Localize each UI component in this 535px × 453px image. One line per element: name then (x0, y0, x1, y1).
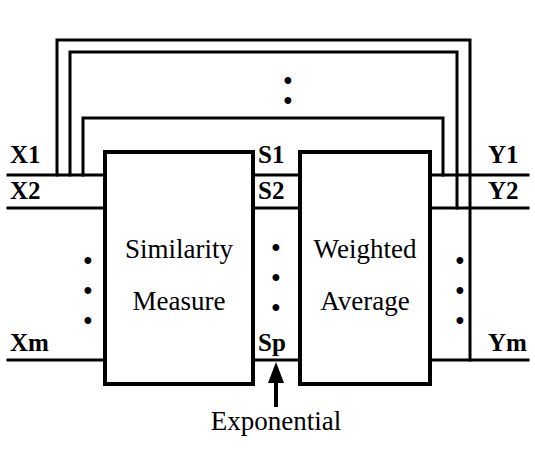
feedback-ellipsis-dot-2: • (284, 88, 293, 113)
output-ellipsis-dot-3: • (456, 308, 465, 333)
output-ellipsis-dot-2: • (456, 278, 465, 303)
similarity-measure-block-outline (105, 152, 253, 384)
signal-ellipsis-dot-2: • (272, 265, 281, 290)
output-label-y2: Y2 (488, 178, 519, 203)
input-label-xm: Xm (10, 330, 49, 355)
signal-ellipsis-dot-3: • (272, 295, 281, 320)
input-ellipsis-dot-2: • (84, 278, 93, 303)
weighted-average-line-2: Average (320, 288, 409, 315)
signal-label-s1: S1 (258, 142, 284, 167)
signal-label-s2: S2 (258, 178, 284, 203)
exponential-arrow (268, 362, 284, 405)
input-label-x1: X1 (10, 142, 41, 167)
output-label-y1: Y1 (488, 142, 519, 167)
weighted-average-block-outline (300, 152, 430, 384)
similarity-measure-line-1: Similarity (125, 236, 233, 263)
diagram-canvas (0, 0, 535, 453)
exponential-caption: Exponential (211, 408, 341, 435)
block-diagram: • • X1 X2 Xm • • • Similarity Measure S1… (0, 0, 535, 453)
input-ellipsis-dot-3: • (84, 308, 93, 333)
signal-ellipsis-dot-1: • (272, 235, 281, 260)
input-label-x2: X2 (10, 178, 41, 203)
signal-label-sp: Sp (258, 330, 286, 355)
output-ellipsis-dot-1: • (456, 248, 465, 273)
input-ellipsis-dot-1: • (84, 248, 93, 273)
similarity-measure-line-2: Measure (133, 288, 226, 315)
output-label-ym: Ym (488, 330, 527, 355)
weighted-average-line-1: Weighted (314, 236, 417, 263)
